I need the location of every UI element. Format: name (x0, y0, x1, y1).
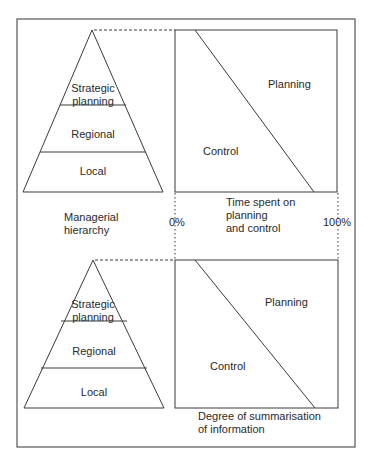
summarisation-line2: of information (198, 423, 321, 436)
managerial-text: Managerial (64, 211, 118, 224)
summarisation-line1: Degree of summarisation (198, 410, 321, 423)
strategic-label: Strategic (66, 298, 120, 311)
axis-start-label: 0% (169, 216, 185, 229)
bottom-pyramid-level-local: Local (64, 386, 124, 399)
axis-end-label: 100% (323, 216, 351, 229)
time-spent-axis-title: Time spent on planning and control (226, 196, 295, 235)
summarisation-axis-title: Degree of summarisation of information (198, 410, 321, 436)
axis-title-line3: and control (226, 222, 295, 235)
axis-title-line1: Time spent on (226, 196, 295, 209)
top-chart-control-region: Control (203, 145, 238, 158)
bottom-pyramid-level-strategic: Strategic planning (66, 298, 120, 324)
axis-title-line2: planning (226, 209, 295, 222)
top-chart-planning-region: Planning (268, 78, 311, 91)
managerial-hierarchy-label: Managerial hierarchy (64, 211, 118, 237)
top-pyramid-level-local: Local (63, 165, 123, 178)
planning-label: planning (66, 311, 120, 324)
strategic-label: Strategic (66, 82, 120, 95)
top-pyramid-level-regional: Regional (63, 128, 123, 141)
bottom-chart-planning-region: Planning (265, 296, 308, 309)
hierarchy-text: hierarchy (64, 224, 118, 237)
top-chart-box (175, 30, 337, 192)
bottom-pyramid-level-regional: Regional (64, 345, 124, 358)
planning-label: planning (66, 95, 120, 108)
bottom-chart-box (175, 260, 338, 408)
bottom-chart-control-region: Control (210, 360, 245, 373)
diagram-canvas (0, 0, 372, 454)
top-pyramid-level-strategic: Strategic planning (66, 82, 120, 108)
